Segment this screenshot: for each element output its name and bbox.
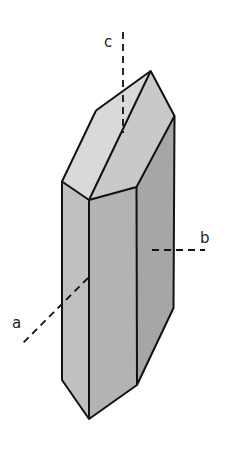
b-axis-label: b [200,229,210,247]
left-face [62,182,89,420]
a-axis-label: a [12,314,21,332]
front-right-vertical-edge [137,187,138,385]
front-face [89,187,137,419]
crystal-diagram: c b a [0,0,228,449]
c-axis-label: c [104,33,112,51]
